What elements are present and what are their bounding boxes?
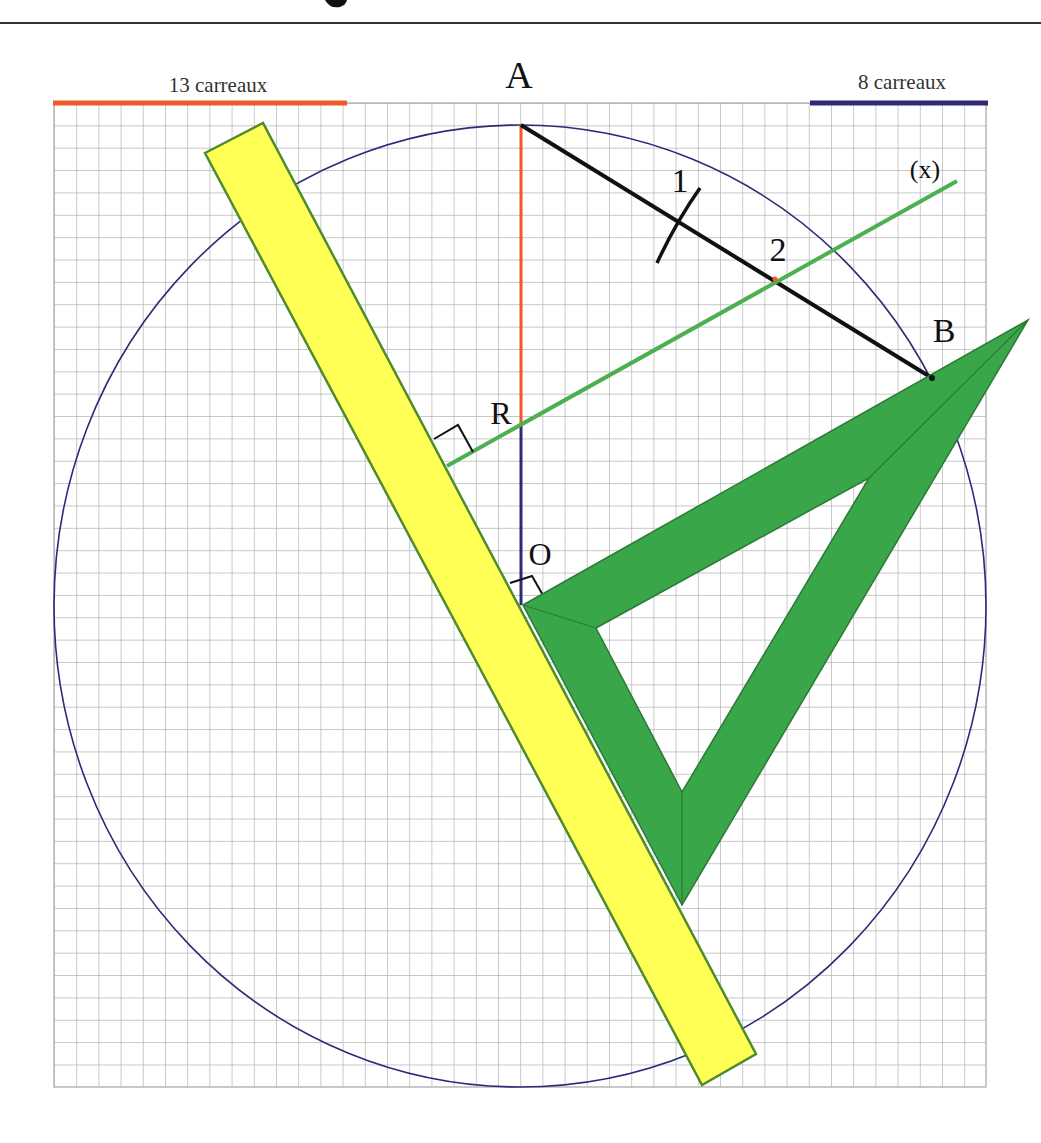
label-A: A [505, 54, 533, 96]
title-glyph-fragment [325, 0, 347, 7]
label-2: 2 [770, 231, 787, 268]
geometry-figure: 13 carreaux 8 carreaux 1 2 (x) A B R O [0, 0, 1041, 1143]
label-line-x: (x) [910, 155, 940, 184]
label-R: R [490, 395, 512, 431]
label-O: O [528, 536, 551, 572]
point-B [929, 375, 935, 381]
scale-label-8: 8 carreaux [858, 70, 947, 94]
label-1: 1 [672, 162, 689, 199]
scale-label-13: 13 carreaux [169, 73, 268, 97]
label-B: B [933, 312, 956, 349]
midpoint-dot [773, 277, 778, 282]
